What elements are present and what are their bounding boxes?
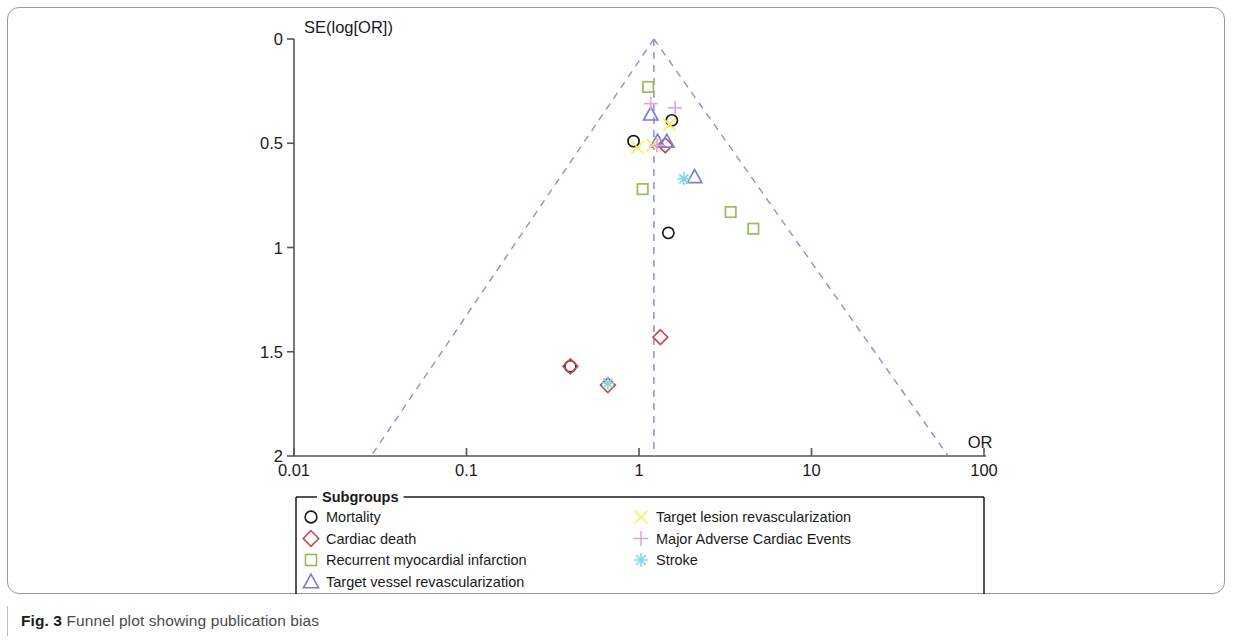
caption-figure-number: Fig. 3 bbox=[21, 612, 62, 629]
legend-item[interactable]: Target vessel revascularization bbox=[303, 574, 524, 590]
data-point-asterisk bbox=[634, 553, 648, 567]
legend-item-label: Recurrent myocardial infarction bbox=[326, 552, 527, 568]
data-point-square bbox=[305, 554, 316, 565]
legend-box: SubgroupsMortalityCardiac deathRecurrent… bbox=[296, 489, 984, 594]
data-point-asterisk bbox=[601, 377, 614, 390]
legend-item-label: Target vessel revascularization bbox=[326, 574, 524, 590]
series-circle bbox=[565, 115, 678, 372]
series-asterisk bbox=[601, 172, 690, 389]
legend-item[interactable]: Mortality bbox=[305, 509, 381, 525]
legend-item[interactable]: Target lesion revascularization bbox=[635, 509, 852, 525]
legend-item-label: Mortality bbox=[326, 509, 382, 525]
funnel-plot: 00.511.52SE(log[OR])0.010.1110100ORSubgr… bbox=[8, 8, 1226, 594]
y-axis-title: SE(log[OR]) bbox=[304, 18, 393, 36]
data-point-circle bbox=[663, 227, 674, 238]
legend-item[interactable]: Major Adverse Cardiac Events bbox=[634, 531, 851, 547]
data-point-circle bbox=[305, 511, 317, 523]
y-tick-label: 1 bbox=[274, 239, 283, 257]
caption-divider bbox=[7, 606, 8, 636]
figure-caption: Fig. 3 Funnel plot showing publication b… bbox=[7, 604, 1225, 638]
x-tick-label: 1 bbox=[634, 461, 643, 479]
circle-marker bbox=[663, 227, 674, 238]
square-marker bbox=[748, 224, 758, 234]
legend-item-label: Target lesion revascularization bbox=[656, 509, 851, 525]
x-tick-label: 0.01 bbox=[278, 461, 310, 479]
x-tick-label: 0.1 bbox=[455, 461, 478, 479]
square-marker bbox=[725, 207, 735, 217]
y-tick-label: 0.5 bbox=[260, 134, 283, 152]
legend-item-label: Major Adverse Cardiac Events bbox=[656, 531, 851, 547]
legend-item-label: Cardiac death bbox=[326, 531, 416, 547]
data-point-asterisk bbox=[677, 172, 690, 185]
data-point-triangle bbox=[687, 170, 701, 183]
diamond-marker bbox=[653, 330, 668, 345]
data-point-triangle bbox=[303, 574, 318, 588]
data-point-square bbox=[748, 224, 758, 234]
triangle-marker bbox=[687, 170, 701, 183]
data-point-square bbox=[725, 207, 735, 217]
x-tick-label: 10 bbox=[802, 461, 820, 479]
legend-item-label: Stroke bbox=[656, 552, 698, 568]
x-axis-title: OR bbox=[968, 433, 993, 451]
square-marker bbox=[305, 554, 316, 565]
legend-item[interactable]: Recurrent myocardial infarction bbox=[305, 552, 526, 568]
series-square bbox=[637, 82, 758, 234]
circle-marker bbox=[305, 511, 317, 523]
data-point-plus bbox=[668, 101, 682, 115]
circle-marker bbox=[628, 136, 639, 147]
legend-item[interactable]: Stroke bbox=[634, 552, 698, 568]
x-tick-label: 100 bbox=[970, 461, 998, 479]
data-point-cross-x bbox=[635, 511, 648, 524]
figure-frame: 00.511.52SE(log[OR])0.010.1110100ORSubgr… bbox=[7, 7, 1225, 594]
funnel-line-right bbox=[654, 39, 948, 456]
data-point-diamond bbox=[303, 531, 319, 547]
legend-title: Subgroups bbox=[322, 489, 399, 505]
series-diamond bbox=[563, 138, 673, 393]
data-point-diamond bbox=[653, 330, 668, 345]
data-point-cross-x bbox=[663, 118, 675, 130]
y-tick-label: 0 bbox=[274, 30, 283, 48]
y-tick-label: 1.5 bbox=[260, 343, 283, 361]
legend-item[interactable]: Cardiac death bbox=[303, 531, 416, 547]
funnel-line-left bbox=[371, 39, 654, 456]
data-point-plus bbox=[644, 97, 658, 111]
data-point-plus bbox=[634, 531, 649, 546]
diamond-marker bbox=[303, 531, 319, 547]
square-marker bbox=[643, 82, 653, 92]
square-marker bbox=[637, 184, 647, 194]
caption-label: Fig. 3 Funnel plot showing publication b… bbox=[21, 612, 319, 630]
data-point-square bbox=[643, 82, 653, 92]
caption-description: Funnel plot showing publication bias bbox=[67, 612, 320, 629]
data-point-circle bbox=[628, 136, 639, 147]
data-point-square bbox=[637, 184, 647, 194]
triangle-marker bbox=[303, 574, 318, 588]
